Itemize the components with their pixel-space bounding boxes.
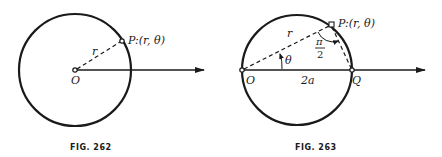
figure-263: P:(r, θ) r θ π 2 O 2a Q FIG. 263 [240,15,425,152]
figure-262: P:(r, θ) r O FIG. 262 [19,14,204,152]
radius-label: r [287,27,293,40]
origin-point [73,68,77,72]
point-q [350,68,354,72]
point-p [120,39,124,43]
origin-label: O [246,74,255,87]
point-p [329,22,334,27]
diagram-canvas: P:(r, θ) r O FIG. 262 P:(r, θ) r θ π 2 O… [0,0,442,157]
theta-angle-arc [280,54,282,69]
point-p-label: P:(r, θ) [337,17,375,30]
two-label: 2 [317,49,323,60]
origin-point [240,68,244,72]
figure-caption: FIG. 262 [70,143,112,152]
diameter-label: 2a [300,74,315,87]
point-q-label: Q [352,74,361,87]
radius-dashed-line [77,42,120,69]
pi-label: π [315,36,323,47]
theta-label: θ [285,54,292,67]
figure-caption: FIG. 263 [295,143,337,152]
origin-label: O [71,74,80,87]
radius-label: r [92,45,98,58]
point-p-label: P:(r, θ) [127,34,165,47]
